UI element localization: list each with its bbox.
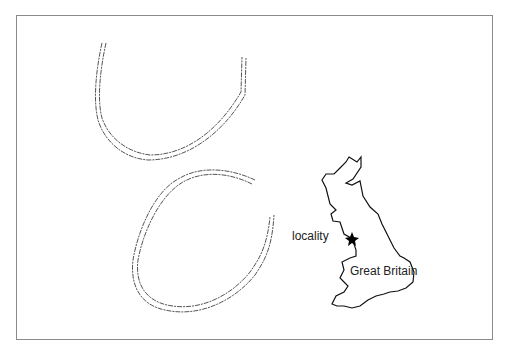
locality-label: locality	[292, 229, 329, 243]
locality-star-icon	[345, 232, 359, 246]
upper-trace-fossil	[95, 43, 246, 160]
lower-trace-fossil	[132, 170, 274, 312]
figure-canvas	[0, 0, 509, 356]
great-britain-map	[322, 157, 414, 308]
country-label: Great Britain	[350, 264, 417, 278]
